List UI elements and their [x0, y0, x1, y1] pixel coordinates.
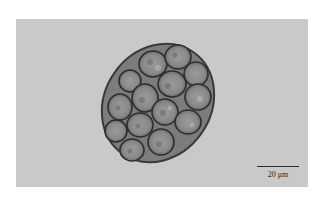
scale-bar	[257, 166, 299, 167]
scale-bar-label: 20 μm	[257, 170, 299, 179]
